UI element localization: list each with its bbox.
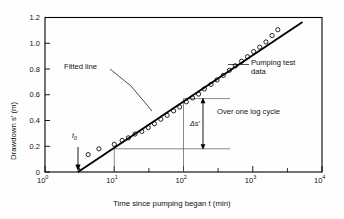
data-point bbox=[196, 92, 200, 96]
data-point bbox=[270, 33, 274, 37]
y-tick-label-1.0: 1.0 bbox=[12, 40, 40, 48]
data-point bbox=[165, 113, 169, 117]
plot-canvas bbox=[0, 0, 344, 219]
fitted-line-leader bbox=[110, 69, 152, 111]
y-tick-label-1.2: 1.2 bbox=[12, 14, 40, 22]
data-point bbox=[152, 122, 156, 126]
x-tick-exp-1: 1 bbox=[115, 174, 118, 180]
t0-arrow bbox=[75, 147, 80, 171]
annotation-t-zero: t0 bbox=[72, 132, 77, 141]
y-axis-title-text: Drawdown s′ (m) bbox=[9, 102, 18, 160]
data-point bbox=[264, 40, 268, 44]
x-tick-exp-2: 2 bbox=[184, 174, 187, 180]
x-tick-exp-3: 3 bbox=[253, 174, 256, 180]
y-tick-label-0: 0 bbox=[12, 169, 40, 177]
data-point-group bbox=[86, 28, 280, 157]
x-tick-label-1e1: 101 bbox=[106, 175, 117, 184]
data-point bbox=[172, 109, 176, 113]
annotation-pumping-test-data-line1: Pumping test bbox=[251, 59, 295, 67]
y-axis-title: Drawdown s′ (m) bbox=[10, 102, 18, 160]
annotation-delta-s: Δs′ bbox=[190, 120, 200, 127]
annotation-pumping-test-data-line2: data bbox=[251, 68, 266, 76]
y-tick-label-0.6: 0.6 bbox=[12, 91, 40, 99]
x-tick-base-1: 10 bbox=[106, 176, 114, 185]
annotation-fitted-line: Fitted line bbox=[64, 63, 97, 71]
x-tick-label-1e2: 102 bbox=[176, 175, 187, 184]
annotation-over-one-log-cycle: Over one log cycle bbox=[217, 108, 280, 116]
data-point bbox=[97, 147, 101, 151]
data-point bbox=[258, 45, 262, 49]
data-point bbox=[178, 105, 182, 109]
x-tick-base-3: 10 bbox=[245, 176, 253, 185]
figure-drawdown-semilog: 1.2 1.0 0.8 0.6 0.4 0.2 0 Drawdown s′ (m… bbox=[0, 0, 344, 219]
data-point bbox=[112, 142, 116, 146]
x-axis-title: Time since pumping began t (min) bbox=[113, 200, 231, 208]
data-point bbox=[86, 153, 90, 157]
data-point bbox=[276, 28, 280, 32]
x-tick-label-1e0: 100 bbox=[37, 175, 48, 184]
x-tick-label-1e3: 103 bbox=[245, 175, 256, 184]
t-zero-sub: 0 bbox=[74, 135, 77, 141]
delta-s-arrow bbox=[201, 98, 206, 150]
y-tick-label-0.8: 0.8 bbox=[12, 66, 40, 74]
x-tick-base-2: 10 bbox=[176, 176, 184, 185]
x-tick-label-1e4: 104 bbox=[314, 175, 325, 184]
x-tick-exp-0: 0 bbox=[45, 174, 48, 180]
y-axis-ticks bbox=[45, 18, 50, 173]
x-tick-exp-4: 4 bbox=[322, 174, 325, 180]
data-point bbox=[252, 50, 256, 54]
